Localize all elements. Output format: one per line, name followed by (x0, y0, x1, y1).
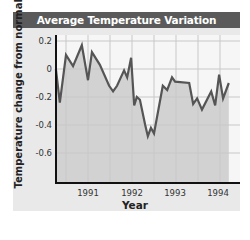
y-tick-label: -0.2 (28, 92, 52, 102)
y-tick-label: 0 (28, 64, 52, 74)
y-tick-label: -0.6 (28, 148, 52, 158)
x-tick-label: 1994 (203, 188, 233, 198)
x-tick-label: 1992 (117, 188, 147, 198)
x-tick-label: 1993 (160, 188, 190, 198)
y-tick-label: -0.4 (28, 120, 52, 130)
y-axis-label: Temperature change from normal (°C) (13, 49, 24, 189)
y-tick-label: 0.2 (28, 36, 52, 46)
x-tick-label: 1991 (73, 188, 103, 198)
x-axis-label: Year (110, 199, 160, 211)
